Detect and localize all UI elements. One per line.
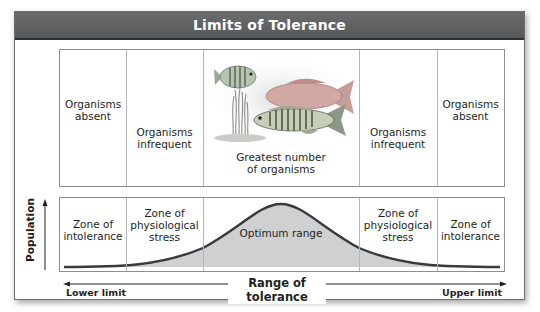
upper-limit-label: Upper limit bbox=[442, 287, 502, 298]
lower-limit-label: Lower limit bbox=[66, 287, 126, 298]
y-axis-label: Population bbox=[24, 202, 36, 262]
axis-arrows bbox=[0, 0, 540, 312]
x-axis-label: Range of tolerance bbox=[228, 276, 326, 304]
